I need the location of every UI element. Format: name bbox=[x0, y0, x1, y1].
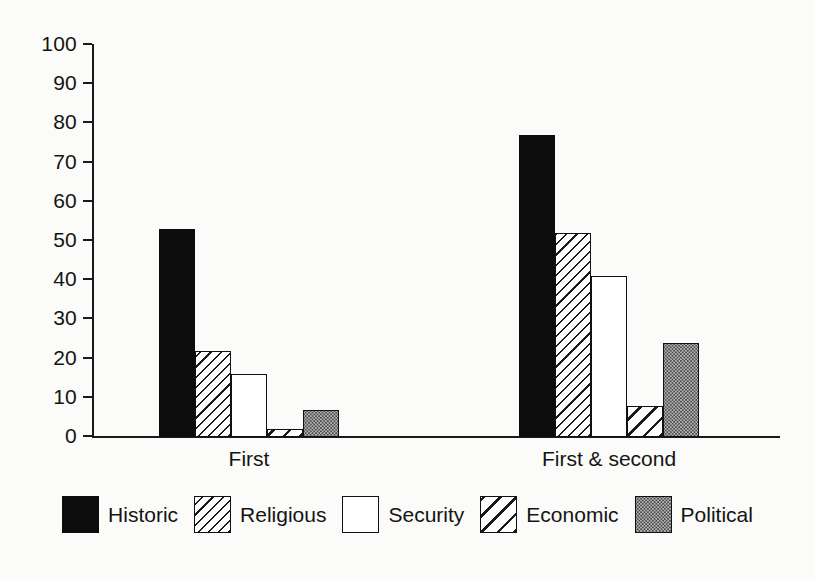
y-axis-tick-label: 70 bbox=[17, 151, 77, 172]
bar-religious-first-and-second bbox=[555, 233, 591, 437]
y-axis-tick-label: 60 bbox=[17, 190, 77, 211]
bar-economic-first bbox=[267, 429, 303, 437]
y-axis-tick-label: 40 bbox=[17, 268, 77, 289]
legend-item-economic: Economic bbox=[480, 496, 618, 533]
legend-label: Religious bbox=[240, 503, 326, 526]
legend-label: Political bbox=[681, 503, 753, 526]
legend-item-historic: Historic bbox=[62, 496, 178, 533]
bar-religious-first bbox=[195, 351, 231, 437]
x-axis-group-label-first-and-second: First & second bbox=[459, 447, 759, 471]
legend-label: Historic bbox=[108, 503, 178, 526]
y-axis-tick-label: 0 bbox=[17, 425, 77, 446]
legend-swatch-political-icon bbox=[635, 496, 672, 533]
y-axis-tick-mark bbox=[83, 435, 92, 437]
y-axis-tick-label: 90 bbox=[17, 72, 77, 93]
y-axis-tick-mark bbox=[83, 121, 92, 123]
y-axis-tick-mark bbox=[83, 82, 92, 84]
bar-security-first-and-second bbox=[591, 276, 627, 437]
legend-label: Security bbox=[388, 503, 464, 526]
y-axis-tick-label: 30 bbox=[17, 307, 77, 328]
y-axis-tick-label: 20 bbox=[17, 347, 77, 368]
y-axis-tick-mark bbox=[83, 357, 92, 359]
legend-swatch-economic-icon bbox=[480, 496, 517, 533]
bar-chart: 1009080706050403020100 FirstFirst & seco… bbox=[0, 0, 815, 579]
legend-item-religious: Religious bbox=[194, 496, 326, 533]
bar-economic-first-and-second bbox=[627, 406, 663, 437]
legend-swatch-religious-icon bbox=[194, 496, 231, 533]
y-axis-tick-mark bbox=[83, 43, 92, 45]
y-axis-tick-label: 10 bbox=[17, 386, 77, 407]
y-axis-tick-mark bbox=[83, 161, 92, 163]
x-axis-group-label-first: First bbox=[99, 447, 399, 471]
bar-historic-first-and-second bbox=[519, 135, 555, 437]
legend-item-security: Security bbox=[342, 496, 464, 533]
y-axis-tick-mark bbox=[83, 317, 92, 319]
legend-swatch-security-icon bbox=[342, 496, 379, 533]
bar-security-first bbox=[231, 374, 267, 437]
bar-political-first bbox=[303, 410, 339, 437]
bar-historic-first bbox=[159, 229, 195, 437]
y-axis-tick-label: 100 bbox=[17, 33, 77, 54]
legend-swatch-historic-icon bbox=[62, 496, 99, 533]
legend-item-political: Political bbox=[635, 496, 753, 533]
y-axis-tick-mark bbox=[83, 278, 92, 280]
y-axis-tick-mark bbox=[83, 396, 92, 398]
chart-legend: HistoricReligiousSecurityEconomicPolitic… bbox=[0, 496, 815, 533]
y-axis-tick-label: 80 bbox=[17, 111, 77, 132]
plot-area bbox=[92, 45, 780, 437]
bar-political-first-and-second bbox=[663, 343, 699, 437]
legend-label: Economic bbox=[526, 503, 618, 526]
y-axis-tick-label: 50 bbox=[17, 229, 77, 250]
y-axis-tick-mark bbox=[83, 239, 92, 241]
y-axis-tick-mark bbox=[83, 200, 92, 202]
